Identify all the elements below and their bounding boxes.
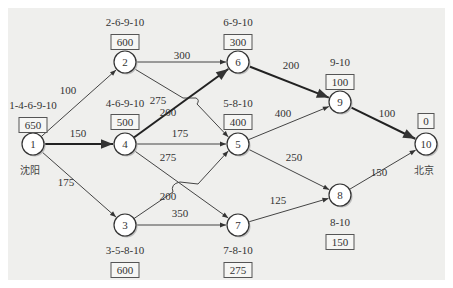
distance-value: 400 — [230, 116, 247, 128]
node-id-label: 10 — [421, 138, 433, 150]
node-id-label: 6 — [235, 56, 241, 68]
node-5: 55-8-10400 — [223, 97, 253, 157]
distance-value: 300 — [230, 36, 247, 48]
distance-value: 100 — [332, 76, 349, 88]
node-id-label: 9 — [337, 96, 343, 108]
edge-weight-label: 150 — [70, 127, 87, 139]
node-7: 77-8-10275 — [223, 214, 253, 278]
edge-weight-label: 100 — [379, 107, 396, 119]
node-id-label: 3 — [122, 219, 128, 231]
shortest-path-label: 4-6-9-10 — [106, 97, 145, 109]
node-id-label: 2 — [122, 56, 128, 68]
edge-weight-label: 100 — [60, 84, 77, 96]
target-city-label: 北京 — [414, 164, 434, 176]
node-id-label: 5 — [235, 138, 241, 150]
edge-weight-label: 200 — [160, 106, 177, 118]
distance-value: 0 — [423, 115, 429, 127]
shortest-path-label: 9-10 — [330, 56, 351, 68]
node-id-label: 4 — [122, 138, 128, 150]
shortest-path-label: 6-9-10 — [223, 16, 253, 28]
edge-weight-label: 400 — [275, 107, 292, 119]
source-city-label: 沈阳 — [20, 164, 40, 176]
node-6: 66-9-10300 — [223, 16, 253, 75]
edge-weight-label: 200 — [283, 59, 300, 71]
network-diagram: 1001501753002752001752752003502004002501… — [0, 0, 453, 288]
edge-weight-label: 300 — [174, 49, 191, 61]
edge-weight-label: 350 — [172, 207, 189, 219]
edge-weight-label: 250 — [286, 151, 303, 163]
edge-weight-label: 200 — [160, 190, 177, 202]
shortest-path-label: 3-5-8-10 — [106, 244, 145, 256]
edge-weight-label: 275 — [150, 94, 167, 106]
edge-weight-label: 125 — [270, 194, 287, 206]
node-id-label: 8 — [337, 189, 343, 201]
distance-value: 150 — [332, 236, 349, 248]
distance-value: 275 — [230, 264, 247, 276]
distance-value: 600 — [117, 36, 134, 48]
distance-value: 500 — [117, 116, 134, 128]
node-id-label: 7 — [235, 219, 241, 231]
node-8: 88-10150 — [326, 184, 354, 250]
shortest-path-label: 1-4-6-9-10 — [9, 99, 57, 111]
shortest-path-label: 2-6-9-10 — [106, 16, 145, 28]
distance-value: 650 — [25, 119, 42, 131]
shortest-path-label: 8-10 — [330, 216, 351, 228]
node-9: 99-10100 — [326, 56, 354, 115]
shortest-path-label: 5-8-10 — [223, 97, 253, 109]
distance-value: 600 — [117, 264, 134, 276]
edge-weight-label: 275 — [160, 151, 177, 163]
shortest-path-label: 7-8-10 — [223, 244, 253, 256]
node-id-label: 1 — [30, 138, 36, 150]
edge-weight-label: 150 — [371, 166, 388, 178]
edge-weight-label: 175 — [58, 176, 75, 188]
edge-weight-label: 175 — [172, 127, 189, 139]
